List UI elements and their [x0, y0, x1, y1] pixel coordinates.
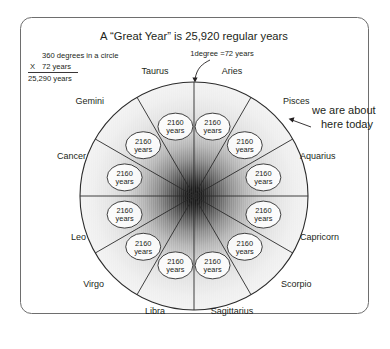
segment-unit: years	[236, 247, 254, 256]
segment-unit: years	[236, 145, 254, 154]
figure-canvas: A “Great Year” is 25,920 regular years 3…	[0, 0, 390, 349]
zodiac-label-virgo: Virgo	[83, 279, 104, 289]
calc-line-2: 72 years	[42, 62, 71, 71]
segment-duration-badge: 2160years	[227, 233, 262, 260]
segment-duration-badge: 2160years	[195, 113, 230, 140]
calc-line-1: 360 degrees in a circle	[42, 51, 118, 60]
segment-duration-badge: 2160years	[126, 132, 161, 159]
segment-unit: years	[166, 265, 184, 274]
zodiac-label-capricorn: Capricorn	[300, 232, 339, 242]
zodiac-label-taurus: Taurus	[141, 66, 169, 76]
today-callout-line-2: here today	[321, 118, 373, 130]
zodiac-label-aquarius: Aquarius	[300, 151, 336, 161]
segment-unit: years	[134, 145, 152, 154]
segment-duration-badge: 2160years	[158, 113, 193, 140]
segment-duration-badge: 2160years	[246, 164, 281, 191]
zodiac-label-sagittarius: Sagittarius	[211, 306, 254, 316]
segment-duration-badge: 2160years	[246, 201, 281, 228]
today-callout-line-1: we are about	[311, 104, 376, 116]
zodiac-label-gemini: Gemini	[75, 96, 104, 106]
segment-duration-badge: 2160years	[107, 201, 142, 228]
segment-unit: years	[116, 177, 134, 186]
segment-unit: years	[204, 265, 222, 274]
segment-unit: years	[116, 214, 134, 223]
zodiac-label-libra: Libra	[145, 306, 165, 316]
segment-unit: years	[166, 126, 184, 135]
zodiac-label-scorpio: Scorpio	[281, 279, 312, 289]
zodiac-label-aries: Aries	[222, 66, 243, 76]
calc-operator: X	[30, 62, 35, 71]
figure-title: A “Great Year” is 25,920 regular years	[100, 30, 288, 42]
zodiac-label-cancer: Cancer	[57, 151, 86, 161]
segment-duration-badge: 2160years	[126, 233, 161, 260]
segment-unit: years	[254, 214, 272, 223]
segment-duration-badge: 2160years	[195, 252, 230, 279]
zodiac-label-leo: Leo	[71, 232, 86, 242]
segment-unit: years	[134, 247, 152, 256]
segment-duration-badge: 2160years	[107, 164, 142, 191]
segment-unit: years	[204, 126, 222, 135]
great-year-wheel: 2160years2160years2160years2160years2160…	[57, 66, 339, 316]
segment-duration-badge: 2160years	[158, 252, 193, 279]
degree-note-label: 1degree =72 years	[190, 49, 254, 58]
segment-unit: years	[254, 177, 272, 186]
zodiac-label-pisces: Pisces	[283, 96, 310, 106]
great-year-figure: A “Great Year” is 25,920 regular years 3…	[0, 0, 390, 349]
segment-duration-badge: 2160years	[227, 132, 262, 159]
calc-result: 25,290 years	[28, 74, 72, 83]
